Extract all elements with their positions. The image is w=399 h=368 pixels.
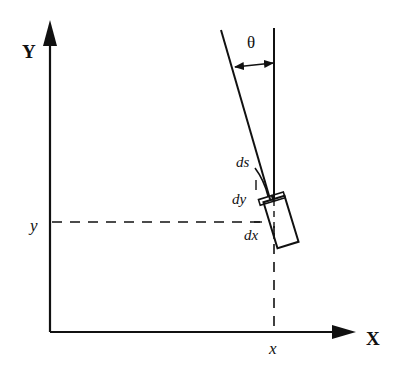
dy-label: dy bbox=[232, 191, 247, 207]
x-axis-arrow-icon bbox=[332, 325, 356, 339]
x-coordinate-label: x bbox=[268, 339, 277, 358]
x-axis-label: X bbox=[366, 328, 380, 349]
kinematics-diagram: Y X θ ds dy dx y x bbox=[0, 0, 399, 368]
y-axis-arrow-icon bbox=[43, 20, 57, 46]
ds-label: ds bbox=[236, 154, 250, 170]
theta-angle-arrow bbox=[235, 63, 273, 67]
heading-line bbox=[221, 30, 272, 206]
dx-label: dx bbox=[244, 227, 259, 243]
y-coordinate-label: y bbox=[28, 216, 38, 235]
vehicle-body bbox=[263, 196, 298, 248]
y-axis-label: Y bbox=[22, 41, 36, 62]
vehicle bbox=[258, 192, 298, 249]
theta-label: θ bbox=[247, 33, 255, 52]
